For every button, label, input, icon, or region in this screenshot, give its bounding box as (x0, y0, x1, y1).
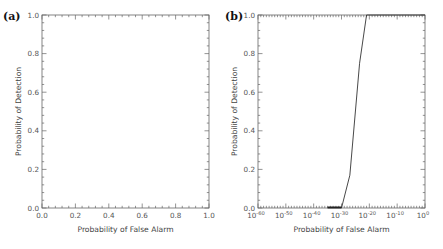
panel-a-label: (a) (3, 10, 21, 23)
y-tick-label: 0.4 (244, 126, 256, 135)
x-tick-label: 10-50 (275, 210, 293, 220)
y-tick-label: 0.4 (28, 126, 40, 135)
panel-a-plot-area (42, 15, 209, 208)
y-tick-label: 1.0 (244, 11, 256, 20)
x-tick-label: 1.0 (203, 211, 215, 220)
panel-a-x-tick-labels: 0.0 0.2 0.4 0.6 0.8 1.0 (36, 211, 215, 220)
panel-a-y-tick-labels: 0.0 0.2 0.4 0.6 0.8 1.0 (28, 11, 40, 213)
panel-b-x-axis-title: Probability of False Alarm (293, 225, 389, 234)
x-tick-label: 10-10 (386, 210, 404, 220)
panel-b-ticks (258, 15, 425, 208)
y-tick-label: 0.6 (244, 88, 256, 97)
x-tick-label: 10-30 (331, 210, 349, 220)
x-tick-label: 0.6 (136, 211, 148, 220)
panel-b-y-axis-title: Probability of Detection (230, 67, 239, 156)
y-tick-label: 0.6 (28, 88, 40, 97)
panel-a-y-axis-title: Probability of Detection (14, 67, 23, 156)
x-tick-label: 100 (417, 210, 429, 220)
panel-b-label: (b) (225, 10, 243, 23)
panel-b: (b) 0.0 0.2 0.4 0.6 0.8 1.0 10-6010-5010… (225, 10, 429, 234)
y-tick-label: 0.8 (244, 49, 256, 58)
x-tick-label: 10-40 (303, 210, 321, 220)
x-tick-label: 10-60 (247, 210, 265, 220)
x-tick-label: 0.2 (70, 211, 81, 220)
x-tick-label: 0.8 (170, 211, 182, 220)
x-tick-label: 10-20 (359, 210, 377, 220)
y-tick-label: 0.2 (244, 165, 255, 174)
x-tick-label: 0.0 (36, 211, 48, 220)
panel-a: (a) 0.0 0.2 0.4 0.6 0.8 1.0 0.0 0.2 0.4 … (3, 10, 215, 234)
y-tick-label: 0.2 (28, 165, 39, 174)
roc-curve-line (328, 15, 425, 208)
roc-curve (328, 15, 425, 208)
panel-b-x-tick-labels: 10-6010-5010-4010-3010-2010-10100 (247, 210, 429, 220)
x-tick-label: 0.4 (103, 211, 115, 220)
panel-a-ticks (42, 15, 209, 208)
panel-b-plot-area (258, 15, 425, 208)
y-tick-label: 0.8 (28, 49, 40, 58)
panel-b-y-tick-labels: 0.0 0.2 0.4 0.6 0.8 1.0 (244, 11, 256, 213)
figure: (a) 0.0 0.2 0.4 0.6 0.8 1.0 0.0 0.2 0.4 … (0, 0, 443, 249)
panel-a-x-axis-title: Probability of False Alarm (77, 225, 173, 234)
y-tick-label: 1.0 (28, 11, 40, 20)
